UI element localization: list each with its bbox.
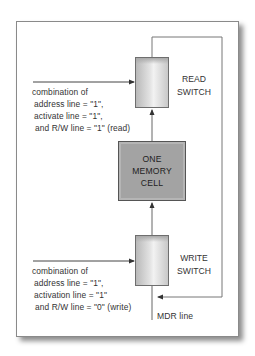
memory-cell: ONE MEMORY CELL xyxy=(118,141,186,201)
read-condition-text: combination of address line = "1", activ… xyxy=(32,86,130,134)
mdr-line-label: MDR line xyxy=(157,310,193,322)
write-condition-text: combination of address line = "1", activ… xyxy=(32,265,131,313)
write-switch xyxy=(135,235,169,286)
read-switch-label: READ SWITCH xyxy=(172,73,216,98)
read-switch xyxy=(135,57,169,108)
write-switch-label: WRITE SWITCH xyxy=(172,252,216,277)
